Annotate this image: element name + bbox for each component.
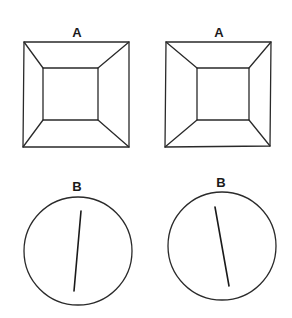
- corner-line: [98, 120, 129, 147]
- corner-line: [24, 42, 43, 68]
- corner-line: [98, 42, 129, 68]
- figure-canvas: A A B B: [0, 0, 292, 318]
- tilted-line: [215, 207, 229, 286]
- panel-b-right: B: [168, 175, 276, 300]
- tilted-line: [74, 211, 81, 291]
- outer-square: [165, 42, 271, 147]
- inner-square: [197, 68, 249, 120]
- corner-line: [166, 42, 197, 68]
- label-b-right: B: [216, 175, 225, 190]
- corner-line: [249, 42, 271, 68]
- outer-square: [23, 42, 129, 147]
- corner-line: [23, 120, 43, 147]
- panel-a-right: A: [165, 25, 271, 147]
- corner-line: [249, 120, 270, 146]
- panel-b-left: B: [24, 179, 132, 305]
- corner-line: [165, 120, 197, 147]
- label-a-right: A: [214, 25, 224, 40]
- label-b-left: B: [72, 179, 81, 194]
- label-a-left: A: [72, 25, 82, 40]
- inner-square: [43, 68, 98, 120]
- panel-a-left: A: [23, 25, 129, 147]
